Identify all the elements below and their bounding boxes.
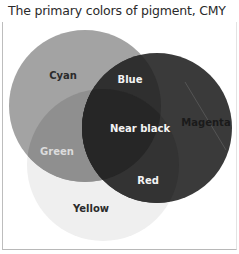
label-green: Green xyxy=(40,146,74,157)
label-red: Red xyxy=(137,175,159,186)
label-cyan: Cyan xyxy=(49,70,77,81)
label-yellow: Yellow xyxy=(73,203,109,214)
label-magenta: Magenta xyxy=(181,117,230,128)
label-near-black: Near black xyxy=(110,123,170,134)
label-blue: Blue xyxy=(118,74,143,85)
